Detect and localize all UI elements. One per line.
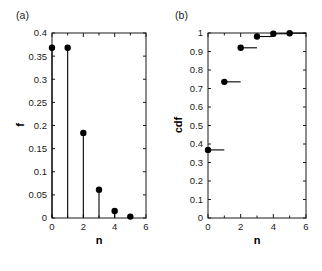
x-tick-label: 4 [271, 221, 276, 232]
y-tick-label: 0.7 [190, 83, 203, 94]
y-tick-label: 0.25 [29, 97, 48, 108]
data-point [254, 33, 260, 39]
y-tick-label: 0.35 [29, 51, 48, 62]
x-tick-label: 2 [238, 221, 243, 232]
y-tick-label: 0 [42, 212, 47, 223]
data-point [111, 208, 117, 214]
data-point [127, 213, 133, 219]
y-tick-label: 0.9 [190, 46, 203, 57]
data-point [221, 79, 227, 85]
x-tick-label: 4 [112, 221, 117, 232]
x-tick-label: 0 [49, 221, 54, 232]
data-point [96, 187, 102, 193]
y-tick-label: 0.1 [34, 166, 47, 177]
x-tick-label: 6 [143, 221, 148, 232]
y-tick-label: 0.4 [190, 138, 203, 149]
y-tick-label: 0.4 [34, 27, 47, 38]
data-point [64, 45, 70, 51]
data-point [80, 130, 86, 136]
panel-a: (a) 00.050.10.150.20.250.30.350.40246 f … [0, 0, 161, 271]
y-tick-label: 0.15 [29, 143, 48, 154]
y-tick-label: 0.2 [34, 120, 47, 131]
x-tick-label: 2 [81, 221, 86, 232]
y-tick-label: 0.2 [190, 175, 203, 186]
y-tick-label: 0 [198, 212, 203, 223]
y-tick-label: 0.5 [190, 120, 203, 131]
y-tick-label: 0.3 [190, 157, 203, 168]
x-tick-label: 6 [303, 221, 308, 232]
panel-a-x-axis-title: n [79, 234, 119, 246]
panel-b-x-axis-title: n [237, 234, 277, 246]
data-point [49, 45, 55, 51]
panel-b-plot: 00.10.20.30.40.50.60.70.80.910246 [161, 0, 322, 271]
plot-frame [208, 33, 306, 218]
panel-b: (b) 00.10.20.30.40.50.60.70.80.910246 cd… [161, 0, 322, 271]
figure-poisson-pmf-cdf: (a) 00.050.10.150.20.250.30.350.40246 f … [0, 0, 322, 271]
panel-a-y-axis-title: f [14, 115, 26, 135]
y-tick-label: 0.6 [190, 101, 203, 112]
data-point [286, 30, 292, 36]
data-point [205, 147, 211, 153]
y-tick-label: 0.1 [190, 194, 203, 205]
y-tick-label: 0.8 [190, 64, 203, 75]
data-point [270, 31, 276, 37]
y-tick-label: 0.3 [34, 74, 47, 85]
y-tick-label: 0.05 [29, 189, 48, 200]
data-point [237, 45, 243, 51]
panel-b-y-axis-title: cdf [172, 115, 184, 135]
y-tick-label: 1 [198, 27, 203, 38]
x-tick-label: 0 [205, 221, 210, 232]
panel-a-plot: 00.050.10.150.20.250.30.350.40246 [0, 0, 161, 271]
